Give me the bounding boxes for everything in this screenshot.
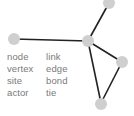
label-node: node bbox=[7, 51, 33, 63]
node-bottom bbox=[95, 98, 107, 110]
edge-synonyms: link edge bond tie bbox=[46, 51, 68, 99]
label-link: link bbox=[46, 51, 68, 63]
label-bond: bond bbox=[46, 75, 68, 87]
label-actor: actor bbox=[7, 87, 33, 99]
node-synonyms: node vertex site actor bbox=[7, 51, 33, 99]
edge-left-hub bbox=[14, 39, 88, 41]
node-top bbox=[103, 0, 115, 9]
node-right bbox=[116, 56, 128, 68]
label-site: site bbox=[7, 75, 33, 87]
edge-right-bottom bbox=[101, 62, 122, 103]
label-vertex: vertex bbox=[7, 63, 33, 75]
label-tie: tie bbox=[46, 87, 68, 99]
edge-hub-top bbox=[88, 3, 109, 41]
node-hub bbox=[82, 35, 94, 47]
node-left bbox=[8, 33, 20, 45]
edge-hub-bottom bbox=[88, 41, 101, 103]
label-edge: edge bbox=[46, 63, 68, 75]
